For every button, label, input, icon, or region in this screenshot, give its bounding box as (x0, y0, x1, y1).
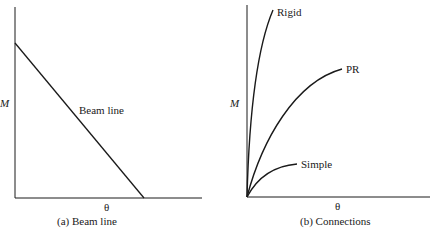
pr-label: PR (346, 64, 359, 75)
simple-curve (247, 164, 297, 197)
rigid-curve (247, 10, 273, 197)
panel-b-caption: (b) Connections (300, 216, 371, 227)
diagram-canvas (0, 0, 430, 233)
panel-a-y-label: M (0, 98, 9, 109)
panel-b-axes (247, 5, 430, 197)
panel-b-y-label: M (230, 98, 239, 109)
panel-a-axes (15, 7, 202, 198)
panel-a-x-label: θ (104, 202, 109, 213)
simple-label: Simple (301, 159, 332, 170)
beam-line (15, 43, 144, 198)
beam-line-label: Beam line (79, 105, 124, 116)
panel-b-x-label: θ (335, 201, 340, 212)
rigid-label: Rigid (277, 7, 301, 18)
panel-a-caption: (a) Beam line (57, 216, 117, 227)
